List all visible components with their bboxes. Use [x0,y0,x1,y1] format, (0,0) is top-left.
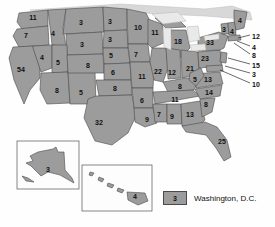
state-value-ga: 13 [186,111,194,118]
state-value-ny: 33 [206,39,214,46]
state-value-il: 22 [154,68,162,75]
state-value-sc: 8 [204,101,208,108]
state-value-fl: 25 [218,138,226,145]
state-value-tx: 32 [95,119,103,126]
state-value-sd: 3 [108,36,112,43]
state-value-wa: 11 [29,14,36,21]
state-value-in: 12 [168,69,176,76]
state-value-wy: 3 [80,41,84,48]
state-value-nh: 4 [230,28,234,35]
state-value-ut: 5 [56,59,60,66]
leader-line-ct [234,43,250,54]
hawaii-inset-box [82,165,152,211]
state-value-vt: 3 [222,26,226,33]
state-value-ca: 54 [17,66,25,73]
state-value-az: 8 [55,87,59,94]
lake-erie [190,44,206,51]
leader-value-md: 10 [252,81,260,88]
state-value-mn: 10 [134,24,142,31]
state-value-co: 8 [86,62,90,69]
electoral-map-figure: 11 7 54 4 4 3 3 5 8 5 8 3 3 5 6 8 32 10 … [0,0,275,227]
state-value-ar: 6 [140,97,144,104]
state-value-nm: 5 [79,89,83,96]
leader-line-ri [237,41,250,46]
leader-value-ma: 12 [252,33,260,40]
hawaii-value: 4 [133,193,137,200]
state-value-va: 13 [204,76,212,83]
leader-value-nj: 15 [252,62,260,69]
state-value-nv: 4 [40,54,44,61]
state-ne [103,48,130,64]
state-value-nd: 3 [108,18,112,25]
state-sd [103,30,128,48]
state-value-mt: 3 [79,19,83,26]
state-id [48,9,66,46]
state-nj [220,52,227,63]
state-value-ky: 8 [178,83,182,90]
state-md [206,65,223,72]
state-value-nc: 14 [205,89,213,96]
state-ia [128,44,150,62]
state-ks [104,63,131,80]
state-value-al: 9 [170,113,174,120]
leader-line-de [225,66,250,73]
lake-huron [187,26,200,42]
state-tx [84,95,136,145]
state-value-tn: 11 [171,96,178,103]
state-or [13,26,49,47]
state-value-ms: 7 [157,111,161,118]
leader-value-ct: 8 [252,52,256,59]
state-mt [63,7,104,34]
legend-label: Washington, D.C. [194,194,256,203]
state-value-oh: 21 [186,65,194,72]
state-value-mo: 11 [138,73,145,80]
state-value-ia: 7 [134,51,138,58]
leader-line-nj [228,58,250,64]
leader-value-de: 3 [252,71,256,78]
state-value-la: 9 [145,116,149,123]
state-value-ne: 5 [109,52,113,59]
state-value-id: 4 [51,30,55,37]
legend-swatch: 3 [163,191,187,205]
state-wy [66,32,103,55]
state-value-wi: 11 [151,29,158,36]
alaska-value: 3 [46,166,50,173]
legend: 3 Washington, D.C. [163,191,256,205]
state-value-me: 4 [238,17,242,24]
state-value-or: 7 [24,32,28,39]
state-value-ks: 6 [111,69,115,76]
state-value-pa: 23 [201,55,209,62]
state-value-mi: 18 [174,38,182,45]
state-value-ok: 8 [113,85,117,92]
leader-value-ri: 4 [252,44,256,51]
state-value-wv: 5 [193,76,197,83]
state-nd [103,7,127,31]
lake-michigan [163,28,171,50]
